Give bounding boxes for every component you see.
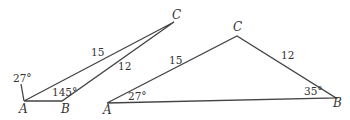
t1-side-bc-label: 12 [118, 60, 131, 72]
t2-angle-a-label: 27° [128, 90, 147, 102]
triangle-acute: 27° 35° 15 12 A B C [102, 20, 342, 117]
t2-vertex-b: B [332, 96, 342, 110]
triangle-obtuse: 27° 145° 15 12 A B C [13, 8, 181, 116]
two-triangles-diagram: 27° 145° 15 12 A B C 27° 35° 15 12 A B C [0, 0, 350, 120]
t2-vertex-a: A [102, 103, 112, 117]
t2-vertex-c: C [233, 20, 242, 34]
triangle1-edges [24, 22, 174, 101]
t2-side-ac-label: 15 [169, 54, 182, 66]
t1-vertex-a: A [18, 102, 28, 116]
t1-vertex-b: B [60, 102, 70, 116]
t2-angle-b-label: 35° [304, 85, 323, 97]
t2-side-bc-label: 12 [281, 49, 294, 61]
t1-side-ac-label: 15 [91, 46, 104, 58]
t1-vertex-c: C [172, 8, 181, 22]
t1-angle-b-label: 145° [52, 86, 77, 98]
t1-angle-a-label: 27° [13, 72, 32, 84]
angle-a-leader-line [21, 84, 24, 101]
